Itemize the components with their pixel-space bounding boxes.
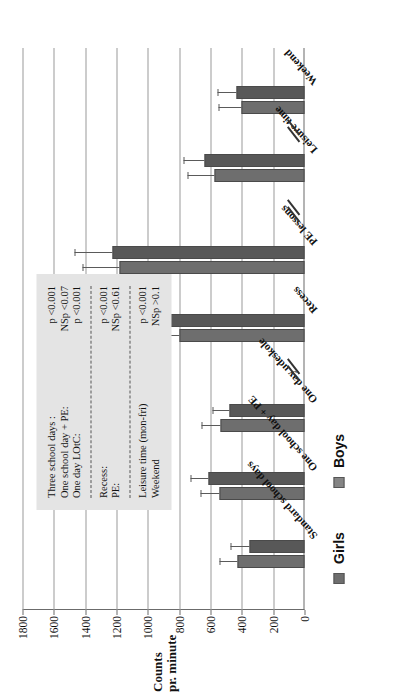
legend-label: Girls	[330, 532, 346, 564]
stats-row-value: p <0.001	[97, 286, 110, 339]
stats-p-value: p <0.001	[70, 286, 81, 323]
error-bar	[219, 561, 237, 562]
bar-girls	[179, 329, 304, 342]
stats-row-value: p <0.001	[70, 286, 83, 339]
legend-item-boys: Boys	[330, 434, 346, 488]
stats-p-value: p <0.07	[58, 286, 69, 318]
error-bar	[82, 267, 120, 268]
tick-mark	[210, 610, 211, 615]
value-axis-title: Counts pr. minute	[150, 635, 178, 692]
stats-row-value: NSp <0.61	[109, 286, 122, 334]
value-axis-line	[22, 609, 304, 610]
stats-row-label: Recess:	[97, 456, 110, 498]
error-bar	[187, 175, 214, 176]
chart-legend: GirlsBoys	[330, 434, 346, 584]
stats-row: Leisure time (mon-fri)p <0.001	[136, 286, 149, 498]
bar-girls	[219, 487, 304, 500]
tick-mark	[116, 610, 117, 615]
stats-row-label: Weekend	[149, 449, 162, 498]
axis-break-mark	[298, 120, 310, 142]
stats-ns-flag: NS	[149, 313, 162, 329]
tick-mark	[85, 610, 86, 615]
stats-ns-flag: NS	[109, 318, 122, 334]
stats-p-value: p <0.001	[45, 286, 56, 323]
stats-row: Recess:p <0.001	[97, 286, 110, 498]
stats-row-label: Three school days :	[45, 406, 58, 498]
stats-separator	[90, 286, 91, 498]
tick-mark	[273, 610, 274, 615]
bar-girls	[119, 261, 304, 274]
statistics-box: Three school days :p <0.001One school da…	[36, 274, 171, 510]
value-axis-tick-label: 1400	[80, 616, 90, 639]
stats-row: One day LOtC:p <0.001	[70, 286, 83, 498]
bar-boys	[236, 86, 304, 99]
tick-mark	[22, 610, 23, 615]
error-bar	[201, 425, 221, 426]
value-axis-tick-label: 400	[236, 616, 246, 633]
error-bar	[230, 546, 249, 547]
axis-break-mark	[298, 359, 310, 381]
value-axis-tick-label: 200	[268, 616, 278, 633]
legend-item-girls: Girls	[330, 532, 346, 584]
error-bar	[200, 493, 219, 494]
error-bar	[183, 160, 203, 161]
tick-mark	[147, 610, 148, 615]
stats-row-value: NSp >0.1	[149, 286, 162, 329]
value-axis-tick-label: 1600	[48, 616, 58, 639]
error-bar	[217, 92, 236, 93]
axis-break-mark	[298, 200, 310, 222]
legend-label: Boys	[330, 434, 346, 468]
tick-mark	[304, 610, 305, 615]
stats-row-label: One day LOtC:	[70, 423, 83, 498]
tick-mark	[53, 610, 54, 615]
error-bar	[212, 410, 229, 411]
stats-row-value: p <0.001	[45, 286, 58, 339]
stats-row-label: Leisure time (mon-fri)	[136, 394, 149, 498]
stats-p-value: p <0.001	[97, 286, 108, 323]
value-axis-tick-label: 600	[205, 616, 215, 633]
stats-p-value: p <0.001	[136, 286, 147, 323]
tick-mark	[241, 610, 242, 615]
stats-p-value: p >0.1	[149, 286, 160, 313]
error-bar	[74, 252, 112, 253]
bar-boys	[112, 246, 304, 259]
bar-boys	[204, 154, 304, 167]
error-bar	[190, 478, 208, 479]
value-axis-tick-label: 1800	[17, 616, 27, 639]
stats-row: One school day + PE:NSp <0.07	[58, 286, 71, 498]
bar-girls	[214, 169, 304, 182]
stats-separator	[129, 286, 130, 498]
category-label: Weekend	[281, 48, 319, 88]
value-axis-tick-label: 1000	[142, 616, 152, 639]
stats-p-value: p <0.61	[109, 286, 120, 318]
legend-swatch-girls	[333, 573, 344, 584]
value-axis-tick-label: 0	[299, 616, 309, 622]
stats-row: WeekendNSp >0.1	[149, 286, 162, 498]
stats-row-label: PE:	[109, 473, 122, 498]
stats-row-value: p <0.001	[136, 286, 149, 339]
value-axis-tick-label: 1200	[111, 616, 121, 639]
value-axis-tick-label: 800	[174, 616, 184, 633]
stats-row: Three school days :p <0.001	[45, 286, 58, 498]
error-bar	[218, 107, 242, 108]
tick-mark	[179, 610, 180, 615]
legend-swatch-boys	[333, 477, 344, 488]
stats-row-label: One school day + PE:	[58, 396, 71, 498]
bar-girls	[237, 555, 304, 568]
figure-canvas: Counts pr. minute 0200400600800100012001…	[0, 0, 419, 696]
stats-row: PE:NSp <0.61	[109, 286, 122, 498]
stats-ns-flag: NS	[58, 318, 71, 334]
gridline	[22, 48, 23, 610]
bar-boys	[249, 540, 304, 553]
stats-row-value: NSp <0.07	[58, 286, 71, 334]
